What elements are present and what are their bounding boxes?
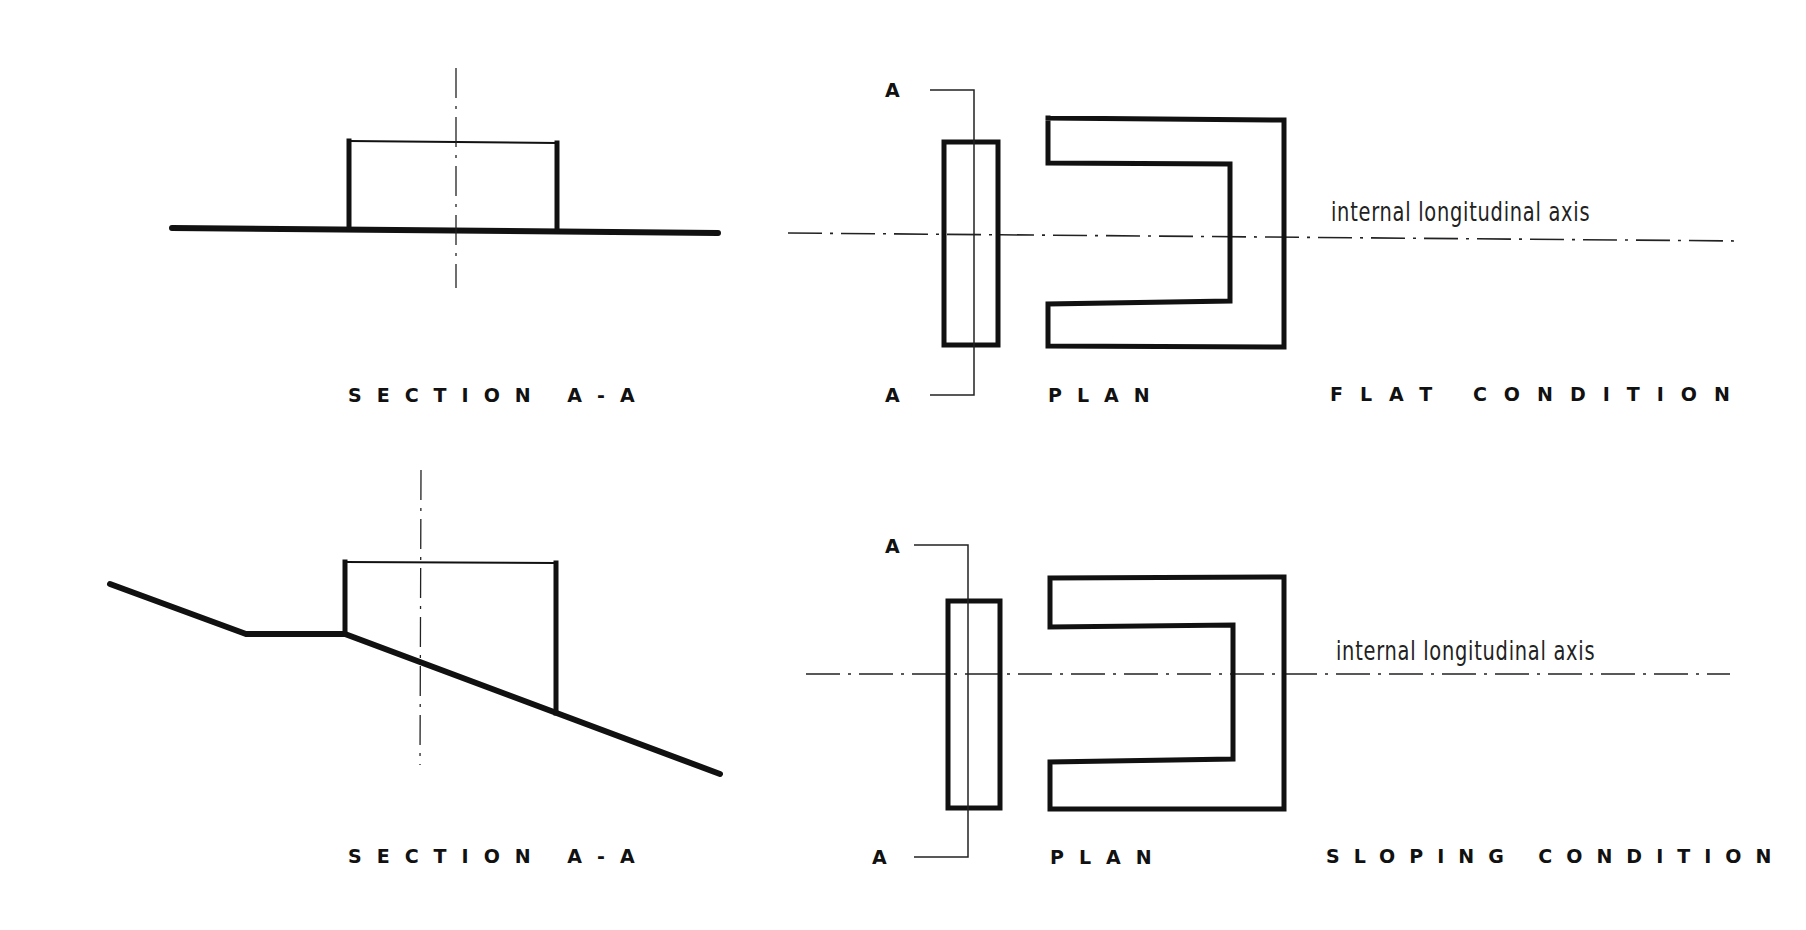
flat-cut-marker-bottom: A [885, 386, 900, 405]
flat-section-cut-line [930, 90, 974, 395]
flat-cut-marker-top: A [885, 81, 900, 100]
sloping-axis-label: internal longitudinal axis [1336, 637, 1595, 664]
sloping-plan-label: PLAN [1050, 848, 1167, 867]
sloping-plan-slab [948, 601, 1000, 808]
flat-condition-title: FLAT CONDITION [1330, 385, 1747, 404]
flat-plan-c-shape [1048, 118, 1284, 347]
flat-section-label: SECTION A-A [348, 386, 650, 405]
flat-section-drawing [172, 68, 718, 288]
sloping-plan-drawing [806, 545, 1730, 857]
sloping-cut-marker-bottom: A [872, 848, 887, 867]
flat-axis-label: internal longitudinal axis [1331, 198, 1590, 225]
sloping-ground-line [110, 584, 720, 774]
flat-longitudinal-axis [788, 233, 1740, 241]
sloping-section-label: SECTION A-A [348, 847, 650, 866]
sloping-section-drawing [110, 470, 720, 774]
flat-ground-line [172, 228, 718, 233]
flat-section-roof [349, 141, 557, 143]
drawing-canvas [0, 0, 1806, 930]
sloping-cut-marker-top: A [885, 537, 900, 556]
flat-plan-slab [944, 142, 998, 345]
sloping-section-center-axis [420, 470, 421, 765]
flat-plan-label: PLAN [1048, 386, 1165, 405]
sloping-section-roof [345, 562, 556, 563]
sloping-plan-c-shape [1050, 577, 1284, 809]
sloping-condition-title: SLOPING CONDITION [1326, 847, 1785, 866]
flat-plan-drawing [788, 90, 1740, 395]
